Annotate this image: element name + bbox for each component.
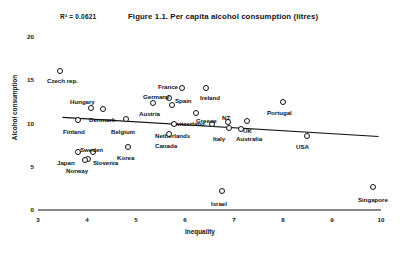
data-point-label: Denmark	[89, 116, 115, 123]
data-point-marker	[88, 105, 94, 111]
data-point-marker	[125, 144, 131, 150]
data-point-label: Austria	[139, 110, 160, 117]
data-point-marker	[100, 106, 106, 112]
data-point-label: Korea	[117, 154, 134, 161]
data-point-marker	[179, 85, 185, 91]
data-point-marker	[219, 188, 225, 194]
data-point-label: NZ	[222, 114, 230, 121]
data-point-marker	[280, 99, 286, 105]
data-point-label: Greece	[196, 117, 217, 124]
data-point-marker	[244, 118, 250, 124]
data-point-label: Czech rep.	[47, 77, 78, 84]
data-point-marker	[370, 184, 376, 190]
data-point-label: Belgium	[111, 128, 135, 135]
data-point-label: Ireland	[200, 94, 220, 101]
data-point-marker	[150, 100, 156, 106]
data-point-marker	[238, 126, 244, 132]
data-point-label: Germany	[143, 93, 169, 100]
data-point-label: Italy	[213, 135, 225, 142]
data-point-label: Japan	[57, 159, 75, 166]
data-point-marker	[193, 110, 199, 116]
data-point-marker	[82, 157, 88, 163]
data-point-marker	[171, 121, 177, 127]
data-point-label: Slovenia	[93, 159, 118, 166]
figure-container: R² = 0.0621 Figure 1.1. Per capita alcoh…	[0, 0, 400, 254]
data-point-label: Hungary	[70, 98, 95, 105]
data-point-marker	[304, 133, 310, 139]
data-point-label: Netherlands	[155, 132, 190, 139]
data-point-marker	[123, 116, 129, 122]
data-point-label: France	[158, 83, 178, 90]
data-point-marker	[57, 68, 63, 74]
data-point-label: Israel	[211, 200, 227, 207]
data-point-marker	[75, 117, 81, 123]
data-point-label: Spain	[175, 97, 192, 104]
plot-canvas	[0, 0, 400, 254]
data-point-marker	[226, 125, 232, 131]
data-point-label: Portugal	[267, 109, 292, 116]
data-point-label: Australia	[236, 135, 262, 142]
data-point-label: Finland	[63, 128, 85, 135]
data-point-marker	[166, 131, 172, 137]
data-point-label: Canada	[155, 142, 177, 149]
data-point-label: USA	[296, 143, 309, 150]
data-point-label: Sweden	[80, 146, 103, 153]
data-point-label: UK	[243, 127, 252, 134]
data-point-label: Singapore	[358, 196, 388, 203]
data-point-label: Norway	[66, 167, 88, 174]
data-point-marker	[203, 85, 209, 91]
